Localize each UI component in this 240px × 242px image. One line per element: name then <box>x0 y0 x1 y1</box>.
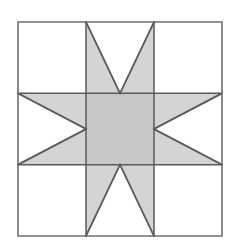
center-square-shape <box>86 93 154 164</box>
quilt-block-figure: Eight-Pointed Star Quilt Block Square qu… <box>0 0 240 242</box>
quilt-block-svg: Eight-Pointed Star Quilt Block Square qu… <box>0 0 240 242</box>
